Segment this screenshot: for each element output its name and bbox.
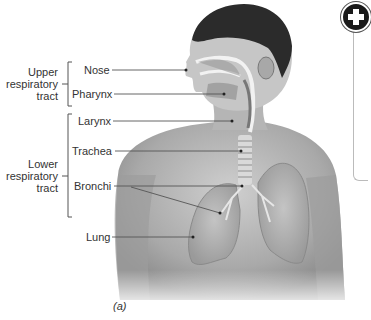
upper-bracket: [62, 62, 72, 106]
lower-respiratory-tract-label: Lower respiratory tract: [4, 158, 58, 194]
lower-bracket: [62, 114, 72, 217]
plus-circle-icon: [343, 4, 369, 30]
label-bronchi: Bronchi: [74, 180, 111, 192]
figure-caption: (a): [113, 300, 126, 312]
label-pharynx: Pharynx: [72, 88, 112, 100]
upper-respiratory-tract-label: Upper respiratory tract: [4, 66, 58, 102]
trachea-rings: [238, 135, 252, 185]
upper-line3: tract: [4, 90, 58, 102]
lower-line1: Lower: [4, 158, 58, 170]
lower-line3: tract: [4, 182, 58, 194]
upper-line2: respiratory: [4, 78, 58, 90]
label-nose: Nose: [84, 64, 110, 76]
label-trachea: Trachea: [72, 145, 112, 157]
label-lung: Lung: [86, 231, 110, 243]
lower-line2: respiratory: [4, 170, 58, 182]
expand-button[interactable]: [341, 2, 371, 32]
label-larynx: Larynx: [78, 115, 111, 127]
panel-edge: [353, 30, 368, 181]
upper-line1: Upper: [4, 66, 58, 78]
